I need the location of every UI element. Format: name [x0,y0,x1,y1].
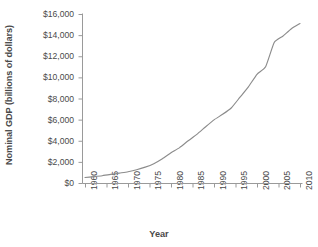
gdp-line-series [85,24,300,178]
x-tick-marks [86,184,301,188]
chart-figure: Nominal GDP (billions of dollars) $0$2,0… [0,0,318,247]
axis-spines [83,14,303,184]
plot-area [0,0,318,247]
x-axis-title: Year [0,229,318,239]
y-tick-marks [79,15,83,184]
